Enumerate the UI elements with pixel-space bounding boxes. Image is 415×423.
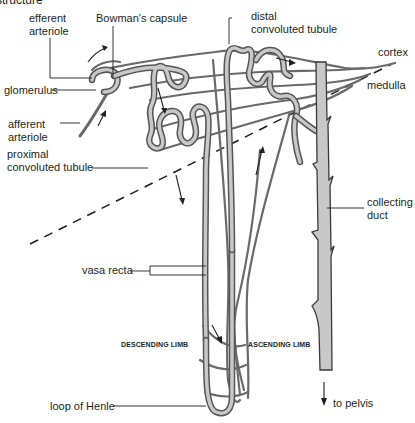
label-efferent-arteriole-line1: efferent	[29, 12, 66, 24]
label-ascending-limb: ASCENDING LIMB	[248, 341, 310, 348]
label-efferent-arteriole-line2: arteriole	[29, 25, 69, 37]
blood-vessels	[80, 51, 395, 402]
label-afferent-arteriole-line2: arteriole	[8, 131, 48, 143]
label-collecting-duct-line2: duct	[367, 209, 388, 221]
label-medulla: medulla	[367, 79, 406, 91]
heading-fragment: structure	[0, 0, 43, 7]
nephron-diagram: structure	[0, 0, 415, 423]
label-glomerulus: glomerulus	[4, 84, 58, 96]
label-cortex: cortex	[378, 46, 408, 58]
label-proximal-line1: proximal	[7, 148, 49, 160]
label-to-pelvis: to pelvis	[333, 397, 374, 409]
collecting-duct	[312, 62, 334, 370]
nephron-tubule	[92, 48, 318, 413]
label-collecting-duct-line1: collecting	[367, 196, 413, 208]
label-vasa-recta: vasa recta	[82, 264, 134, 276]
label-distal-line2: convoluted tubule	[251, 23, 337, 35]
label-loop-of-henle: loop of Henle	[50, 400, 115, 412]
label-distal-line1: distal	[251, 10, 277, 22]
label-descending-limb: DESCENDING LIMB	[121, 341, 188, 348]
label-proximal-line2: convoluted tubule	[7, 161, 93, 173]
label-afferent-arteriole-line1: afferent	[8, 118, 45, 130]
label-bowmans-capsule: Bowman's capsule	[96, 12, 187, 24]
